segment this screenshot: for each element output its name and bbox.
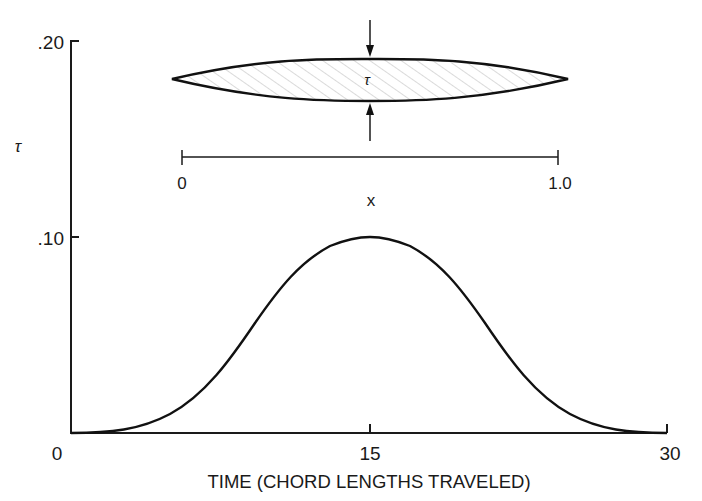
y-tick-label-0.10: .10 (38, 228, 64, 249)
y-tick-label-0.20: .20 (38, 32, 64, 53)
x-tick-label-0: 0 (52, 443, 63, 464)
airfoil-shape (172, 59, 568, 101)
y-axis: .20 .10 τ (15, 32, 79, 434)
x-axis-label: TIME (CHORD LENGTHS TRAVELED) (207, 471, 530, 492)
scale-end-label: 1.0 (548, 174, 572, 193)
x-tick-label-30: 30 (659, 443, 680, 464)
y-axis-label: τ (15, 137, 23, 156)
x-tick-label-15: 15 (359, 443, 380, 464)
scale-start-label: 0 (177, 174, 186, 193)
thickness-curve (71, 237, 667, 433)
chart-figure: .20 .10 τ 0 15 30 TIME (CHORD LENGTHS TR… (0, 0, 702, 501)
arrow-up-icon (366, 103, 374, 141)
x-axis: 0 15 30 TIME (CHORD LENGTHS TRAVELED) (52, 424, 681, 492)
scale-x-label: x (367, 191, 376, 210)
inset-scale-bar: 0 1.0 x (177, 150, 572, 210)
arrow-down-icon (366, 20, 374, 57)
inset-airfoil-diagram: τ 0 1.0 x (172, 20, 572, 210)
